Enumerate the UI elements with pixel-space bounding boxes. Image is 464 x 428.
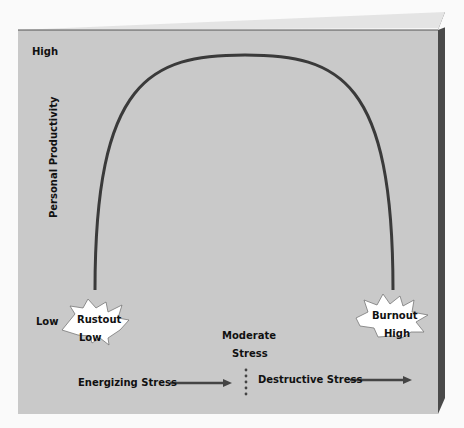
energizing-stress-label: Energizing Stress: [78, 377, 177, 388]
x-axis-low: Low: [79, 332, 101, 343]
panel-top-bevel: [18, 12, 445, 30]
x-axis-moderate: Moderate: [222, 330, 276, 341]
diagram-graphics: [0, 0, 464, 428]
panel-side: [438, 12, 445, 414]
panel-face: [18, 30, 438, 414]
y-axis-low: Low: [36, 316, 58, 327]
rustout-label: Rustout: [77, 314, 121, 325]
burnout-label: Burnout: [372, 310, 418, 321]
destructive-stress-label: Destructive Stress: [258, 374, 362, 385]
y-axis-label: Personal Productivity: [48, 97, 59, 218]
x-axis-stress: Stress: [232, 348, 268, 359]
y-axis-high: High: [32, 46, 58, 57]
x-axis-high: High: [384, 328, 410, 339]
